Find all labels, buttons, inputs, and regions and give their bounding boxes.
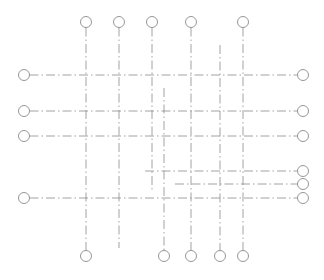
grid-bubble-right-h6 — [298, 193, 309, 204]
grid-bubbles-layer — [19, 17, 309, 262]
grid-bubble-top-v3 — [147, 17, 158, 28]
grid-bubble-right-h4 — [298, 166, 309, 177]
grid-bubble-top-v2 — [114, 17, 125, 28]
grid-bubble-bottom-v5 — [186, 251, 197, 262]
grid-bubble-bottom-v6 — [215, 251, 226, 262]
grid-bubble-bottom-v4 — [159, 251, 170, 262]
grid-bubble-top-v5 — [186, 17, 197, 28]
grid-diagram — [0, 0, 324, 280]
grid-bubble-right-h1 — [298, 70, 309, 81]
grid-bubble-right-h5 — [298, 179, 309, 190]
grid-bubble-left-h3 — [19, 131, 30, 142]
gridlines-layer — [30, 28, 298, 251]
grid-bubble-top-v1 — [81, 17, 92, 28]
grid-bubble-right-h3 — [298, 131, 309, 142]
grid-bubble-left-h2 — [19, 106, 30, 117]
grid-bubble-top-v7 — [238, 17, 249, 28]
grid-bubble-left-h1 — [19, 70, 30, 81]
grid-bubble-left-h6 — [19, 193, 30, 204]
grid-bubble-bottom-v1 — [81, 251, 92, 262]
grid-bubble-right-h2 — [298, 106, 309, 117]
grid-bubble-bottom-v7 — [238, 251, 249, 262]
